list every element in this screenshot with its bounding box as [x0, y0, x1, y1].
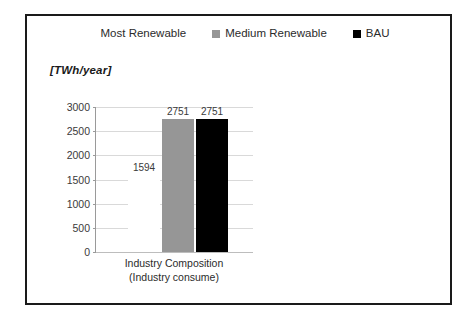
- legend-swatch-most-renewable: [88, 30, 96, 38]
- legend-swatch-bau: [353, 30, 361, 38]
- y-tick-label-0: 0: [84, 246, 90, 258]
- plot-wrapper: 300025002000150010005000 159427512751 In…: [45, 93, 255, 273]
- legend-label-bau: BAU: [366, 28, 390, 40]
- legend-item-bau: BAU: [353, 28, 390, 40]
- legend-label-most-renewable: Most Renewable: [101, 28, 187, 40]
- bar-value-label-most-renewable: 1594: [133, 162, 155, 173]
- y-tick-mark-0: [93, 252, 96, 253]
- y-tick-label-2500: 2500: [67, 125, 90, 137]
- x-axis-category-label: Industry Composition (Industry consume): [95, 256, 253, 284]
- bar-value-label-medium-renewable: 2751: [167, 106, 189, 117]
- bar-medium-renewable[interactable]: 2751: [162, 119, 194, 252]
- chart-legend: Most Renewable Medium Renewable BAU: [27, 28, 450, 40]
- bar-most-renewable[interactable]: 1594: [128, 175, 160, 252]
- y-tick-label-500: 500: [72, 222, 90, 234]
- legend-label-medium-renewable: Medium Renewable: [225, 28, 327, 40]
- bar-bau[interactable]: 2751: [196, 119, 228, 252]
- figure-frame: Most Renewable Medium Renewable BAU [TWh…: [25, 14, 452, 305]
- y-tick-label-1000: 1000: [67, 198, 90, 210]
- y-axis-unit-caption: [TWh/year]: [50, 64, 111, 76]
- bar-group: 159427512751: [96, 107, 253, 252]
- y-tick-label-3000: 3000: [67, 101, 90, 113]
- plot-area: 300025002000150010005000 159427512751: [95, 107, 253, 252]
- legend-item-most-renewable: Most Renewable: [88, 28, 187, 40]
- x-axis-label-line-1: Industry Composition: [95, 256, 253, 270]
- legend-item-medium-renewable: Medium Renewable: [212, 28, 327, 40]
- legend-swatch-medium-renewable: [212, 30, 220, 38]
- bar-value-label-bau: 2751: [201, 106, 223, 117]
- y-tick-label-2000: 2000: [67, 149, 90, 161]
- x-axis-label-line-2: (Industry consume): [95, 270, 253, 284]
- gridline-0: 0: [96, 252, 253, 253]
- y-tick-label-1500: 1500: [67, 174, 90, 186]
